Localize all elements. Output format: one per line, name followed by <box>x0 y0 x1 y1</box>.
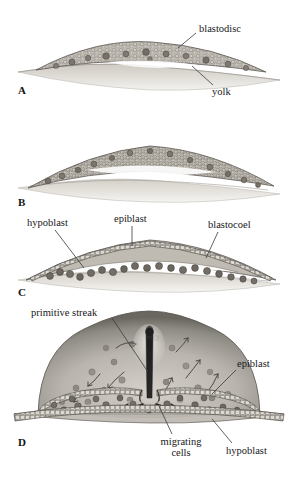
primitive-node <box>145 328 153 336</box>
panel-letter-b: B <box>18 196 26 208</box>
panel-letter-c: C <box>18 286 26 298</box>
panel-letter-d: D <box>18 436 26 448</box>
label-migrating-cells: migrating cells <box>150 437 212 458</box>
label-hypoblast-panel-c: hypoblast <box>27 218 68 229</box>
label-blastocoel: blastocoel <box>208 220 251 231</box>
panel-letter-a: A <box>18 84 26 96</box>
label-epiblast-panel-d: epiblast <box>237 359 270 370</box>
label-blastodisc: blastodisc <box>199 24 241 35</box>
label-hypoblast-panel-d: hypoblast <box>226 446 267 457</box>
embryo-development-figure <box>0 0 297 482</box>
label-yolk: yolk <box>212 87 231 98</box>
label-epiblast-panel-c: epiblast <box>114 214 147 225</box>
primitive-streak-groove <box>146 326 153 398</box>
label-primitive-streak: primitive streak <box>31 308 97 319</box>
